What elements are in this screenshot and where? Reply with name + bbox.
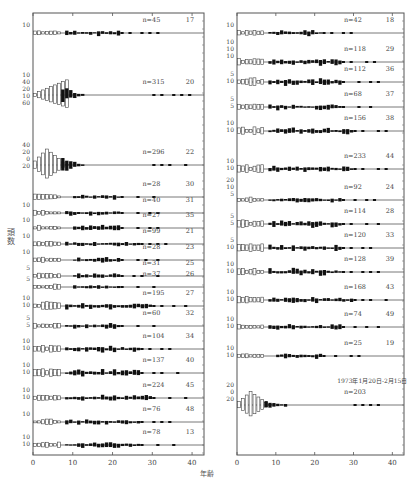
y-tick-label: 10 <box>22 368 30 375</box>
adult-bar <box>268 61 271 64</box>
juvenile-bar <box>57 396 60 400</box>
panel-id-label: 13 <box>186 428 194 436</box>
adult-bar <box>73 31 76 35</box>
adult-bar <box>65 397 68 399</box>
adult-bar <box>303 107 306 108</box>
adult-bar <box>323 59 326 64</box>
juvenile-bar <box>245 165 248 173</box>
sample-size-label: n=31 <box>142 259 160 267</box>
adult-bar <box>272 130 275 132</box>
juvenile-bar <box>238 128 241 134</box>
adult-bar <box>77 273 80 278</box>
adult-bar <box>97 444 100 448</box>
adult-bar <box>323 326 326 327</box>
juvenile-bar <box>57 303 60 309</box>
juvenile-bar <box>245 79 248 84</box>
y-tick-label: 5 <box>26 321 30 328</box>
juvenile-bar <box>241 297 244 302</box>
adult-bar <box>311 269 314 274</box>
adult-bar <box>120 227 123 229</box>
juvenile-bar <box>37 286 40 289</box>
juvenile-bar <box>249 105 252 109</box>
y-tick-label: 10 <box>22 248 30 255</box>
juvenile-bar <box>41 242 44 245</box>
adult-bar <box>97 244 100 245</box>
panel-18 <box>237 30 404 36</box>
adult-bar <box>276 299 279 302</box>
adult-bar <box>136 325 139 327</box>
adult-bar <box>125 305 128 308</box>
y-tick-label: 10 <box>226 260 234 267</box>
juvenile-bar <box>253 221 256 226</box>
juvenile-bar <box>253 326 256 328</box>
adult-bar <box>105 227 108 230</box>
adult-bar <box>292 223 295 224</box>
x-tick-label: 0 <box>31 459 35 467</box>
adult-bar <box>113 305 116 308</box>
adult-bar <box>180 94 183 96</box>
juvenile-bar <box>53 444 56 446</box>
x-tick-label: 0 <box>235 459 239 467</box>
adult-bar <box>93 348 96 350</box>
adult-bar <box>292 245 295 251</box>
adult-bar <box>73 260 76 261</box>
adult-bar <box>292 198 295 201</box>
adult-bar <box>93 259 96 262</box>
juvenile-bar <box>34 346 37 351</box>
adult-bar <box>73 305 76 306</box>
adult-bar <box>89 32 92 35</box>
juvenile-bar <box>34 242 37 246</box>
adult-bar <box>73 348 76 351</box>
adult-bar <box>120 212 123 214</box>
adult-bar <box>65 420 68 424</box>
adult-bar <box>93 286 96 288</box>
adult-bar <box>299 60 302 63</box>
y-tick-label: 10 <box>226 52 234 59</box>
juvenile-bar <box>249 392 252 416</box>
adult-bar <box>365 199 368 201</box>
adult-bar <box>140 372 143 374</box>
adult-bar <box>97 285 100 289</box>
juvenile-bar <box>241 269 244 275</box>
adult-bar <box>129 371 132 374</box>
adult-bar <box>288 167 291 171</box>
adult-bar <box>280 105 283 108</box>
adult-bar <box>299 106 302 108</box>
juvenile-bar <box>261 244 264 251</box>
adult-bar <box>292 60 295 64</box>
adult-bar <box>160 94 163 96</box>
adult-bar <box>125 420 128 424</box>
adult-bar <box>361 168 364 170</box>
adult-bar <box>85 243 88 244</box>
panel-26 <box>33 284 204 289</box>
y-tick-label: 5 <box>230 95 234 102</box>
adult-bar <box>296 326 299 327</box>
juvenile-bar <box>53 346 56 352</box>
juvenile-bar <box>37 443 40 446</box>
adult-bar <box>361 404 364 406</box>
adult-bar <box>377 130 380 132</box>
adult-bar <box>117 397 120 399</box>
adult-bar <box>184 164 187 166</box>
adult-bar <box>129 444 132 447</box>
juvenile-bar <box>34 323 37 328</box>
adult-bar <box>315 298 318 303</box>
adult-bar <box>73 370 76 375</box>
adult-bar <box>296 298 299 302</box>
adult-bar <box>307 247 310 249</box>
juvenile-bar <box>261 127 264 134</box>
adult-bar <box>77 94 80 97</box>
adult-bar <box>315 130 318 133</box>
adult-bar <box>73 285 76 288</box>
adult-bar <box>338 61 341 65</box>
adult-bar <box>152 286 155 288</box>
adult-bar <box>334 270 337 272</box>
juvenile-bar <box>45 273 48 278</box>
panel-30 <box>33 194 204 200</box>
juvenile-bar <box>34 258 37 261</box>
adult-bar <box>117 274 120 277</box>
panel-id-label: 44 <box>386 152 394 160</box>
juvenile-bar <box>257 270 260 273</box>
adult-bar <box>307 299 310 300</box>
adult-bar <box>160 164 163 166</box>
